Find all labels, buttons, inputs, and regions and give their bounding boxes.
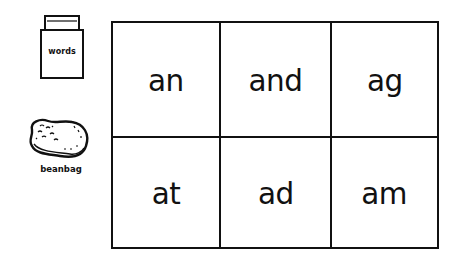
cell-word: ad xyxy=(258,175,294,211)
grid-cell-at: at xyxy=(113,138,221,247)
grid-cell-ad: ad xyxy=(221,138,332,247)
beanbag: beanbag xyxy=(26,116,96,176)
cell-word: ag xyxy=(367,62,403,98)
grid-cell-an: an xyxy=(113,23,221,138)
grid-cell-ag: ag xyxy=(332,23,437,138)
grid-cell-and: and xyxy=(221,23,332,138)
word-grid: an and ag at ad am xyxy=(111,21,439,249)
beanbag-icon xyxy=(26,116,96,166)
cell-word: and xyxy=(248,62,302,98)
cell-word: am xyxy=(362,175,408,211)
grid-cell-am: am xyxy=(332,138,437,247)
words-card: words xyxy=(40,15,84,79)
beanbag-label: beanbag xyxy=(26,164,96,174)
cell-word: an xyxy=(148,62,184,98)
cell-word: at xyxy=(152,175,181,211)
words-label: words xyxy=(40,47,84,56)
